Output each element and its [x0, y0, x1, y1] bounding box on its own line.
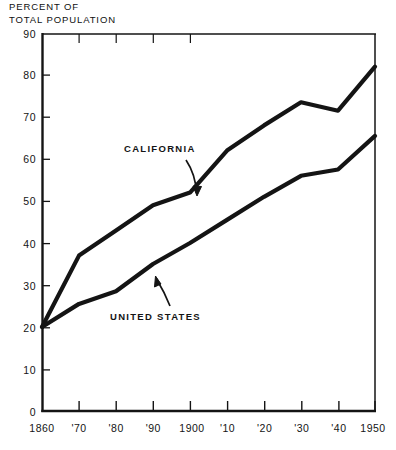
x-tick-label: 1900 — [179, 422, 204, 434]
x-tick-label: '70 — [72, 422, 87, 434]
x-tick-label: '20 — [257, 422, 272, 434]
series-line-california — [42, 67, 375, 327]
y-tick-label: 80 — [23, 69, 36, 81]
x-tick-label: '30 — [294, 422, 309, 434]
series-lines — [42, 67, 375, 327]
x-tick-label: 1950 — [360, 422, 385, 434]
x-tick-label: '90 — [146, 422, 161, 434]
annotation-label-united-states: UNITED STATES — [110, 311, 201, 322]
x-tick-label: '10 — [220, 422, 235, 434]
plot-frame — [41, 33, 376, 412]
x-tick-label: '40 — [331, 422, 346, 434]
chart-svg: 90 80 70 60 50 40 30 20 10 0 1860 '70 '8… — [0, 0, 396, 450]
x-axis-ticks — [79, 401, 375, 411]
y-tick-label: 10 — [23, 364, 36, 376]
y-tick-label: 40 — [23, 238, 36, 250]
y-tick-label: 60 — [23, 153, 36, 165]
x-tick-label: 1860 — [29, 422, 54, 434]
chart-annotations: CALIFORNIA UNITED STATES — [110, 143, 202, 322]
y-axis-tick-labels: 90 80 70 60 50 40 30 20 10 0 — [23, 28, 36, 418]
y-tick-label: 90 — [23, 28, 36, 40]
y-tick-label: 50 — [23, 195, 36, 207]
x-axis-ticks-top — [79, 34, 190, 43]
series-line-united-states — [42, 136, 375, 327]
y-tick-label: 70 — [23, 111, 36, 123]
y-tick-label: 20 — [23, 322, 36, 334]
chart-container: PERCENT OFTOTAL POPULATION — [0, 0, 396, 450]
annotation-label-california: CALIFORNIA — [124, 143, 196, 154]
x-tick-label: '80 — [109, 422, 124, 434]
x-axis-tick-labels: 1860 '70 '80 '90 1900 '10 '20 '30 '40 19… — [29, 422, 385, 434]
y-tick-label: 0 — [30, 406, 36, 418]
y-tick-label: 30 — [23, 280, 36, 292]
